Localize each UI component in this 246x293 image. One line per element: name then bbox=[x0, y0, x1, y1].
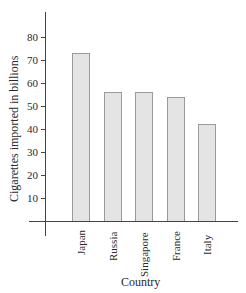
y-tick bbox=[41, 152, 46, 153]
bar-japan bbox=[72, 53, 90, 221]
bar-france bbox=[167, 97, 185, 221]
y-tick bbox=[41, 37, 46, 38]
y-tick bbox=[41, 198, 46, 199]
y-tick bbox=[41, 60, 46, 61]
y-tick bbox=[41, 106, 46, 107]
y-tick-label: 80 bbox=[12, 31, 38, 43]
bar-italy bbox=[198, 124, 216, 221]
y-tick bbox=[41, 83, 46, 84]
x-tick-label-japan: Japan bbox=[75, 230, 87, 255]
x-axis-label: Country bbox=[121, 275, 160, 290]
x-tick-label-italy: Italy bbox=[201, 235, 213, 255]
bar-russia bbox=[104, 92, 122, 221]
bar-singapore bbox=[135, 92, 153, 221]
x-tick-label-russia: Russia bbox=[107, 231, 119, 260]
x-axis-line bbox=[29, 221, 238, 222]
y-axis-line bbox=[45, 12, 46, 236]
y-tick bbox=[41, 129, 46, 130]
x-tick-label-france: France bbox=[170, 231, 182, 261]
y-axis-label: Cigarettes imported in billions bbox=[7, 56, 22, 202]
y-tick bbox=[41, 175, 46, 176]
x-tick-label-singapore: Singapore bbox=[138, 233, 150, 278]
